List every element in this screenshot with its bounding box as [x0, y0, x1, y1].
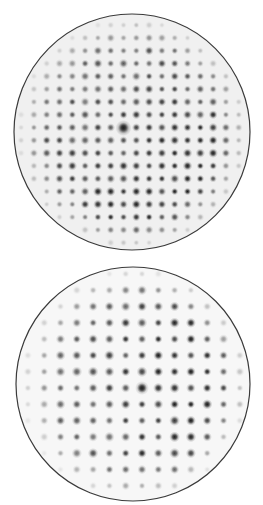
- diffraction-spot: [119, 85, 128, 94]
- diffraction-spot: [88, 334, 98, 344]
- diffraction-spot: [68, 72, 76, 80]
- diffraction-spot: [106, 72, 115, 81]
- diffraction-spot: [153, 399, 163, 409]
- diffraction-spot: [183, 47, 191, 55]
- center-beam-spot: [135, 381, 149, 395]
- diffraction-spot: [137, 432, 146, 441]
- diffraction-spot: [69, 201, 76, 208]
- diffraction-spot: [105, 416, 114, 425]
- diffraction-spot: [184, 60, 192, 68]
- diffraction-spot: [69, 85, 77, 93]
- diffraction-spot: [120, 22, 127, 29]
- diffraction-spot: [132, 136, 140, 144]
- diffraction-spot: [80, 123, 90, 133]
- diffraction-spot: [120, 47, 127, 54]
- diffraction-spot: [30, 175, 38, 183]
- diffraction-spot: [104, 399, 114, 409]
- diffraction-spot: [222, 98, 229, 105]
- diffraction-spot: [30, 124, 37, 131]
- diffraction-spot: [121, 432, 131, 442]
- diffraction-spot: [30, 149, 39, 158]
- diffraction-spot: [30, 73, 37, 80]
- diffraction-spot: [171, 149, 179, 157]
- diffraction-spot: [170, 123, 179, 132]
- diffraction-spot: [56, 384, 65, 393]
- diffraction-spot: [158, 85, 165, 92]
- diffraction-spot: [44, 201, 50, 207]
- diffraction-spot: [89, 319, 97, 327]
- diffraction-spot: [145, 110, 153, 118]
- diffraction-spot: [73, 433, 81, 441]
- diffraction-spot: [43, 188, 50, 195]
- diffraction-spot: [209, 200, 217, 208]
- diffraction-spot: [81, 60, 89, 68]
- diffraction-spot: [203, 449, 211, 457]
- diffraction-spot: [17, 111, 25, 119]
- diffraction-spot: [170, 213, 179, 222]
- diffraction-spot: [137, 366, 148, 377]
- diffraction-spot: [158, 47, 166, 55]
- diffraction-spot: [222, 85, 230, 93]
- diffraction-spot: [81, 47, 89, 55]
- diffraction-spot: [18, 124, 25, 131]
- diffraction-spot: [72, 286, 81, 295]
- diffraction-spot: [106, 162, 114, 170]
- diffraction-spot: [88, 448, 99, 459]
- diffraction-spot: [56, 433, 65, 442]
- diffraction-spot: [137, 448, 147, 458]
- diffraction-spot: [94, 98, 102, 106]
- diffraction-spot: [132, 123, 141, 132]
- diffraction-spot: [94, 175, 102, 183]
- diffraction-spot: [196, 136, 204, 144]
- diffraction-spot: [107, 111, 114, 118]
- diffraction-spot: [236, 351, 244, 359]
- diffraction-spot: [169, 383, 180, 394]
- diffraction-spot: [236, 400, 245, 409]
- diffraction-spot: [56, 334, 66, 344]
- diffraction-spot: [24, 401, 31, 408]
- diffraction-spot: [137, 317, 148, 328]
- diffraction-spot: [107, 47, 115, 55]
- diffraction-spot: [171, 47, 178, 54]
- diffraction-spot: [95, 35, 102, 42]
- diffraction-spot: [145, 34, 154, 43]
- diffraction-spot: [119, 200, 128, 209]
- diffraction-spot: [55, 350, 65, 360]
- diffraction-spot: [154, 286, 162, 294]
- diffraction-spot: [56, 319, 64, 327]
- diffraction-spot: [120, 188, 128, 196]
- diffraction-spot: [133, 47, 140, 54]
- diffraction-spot: [57, 303, 65, 311]
- diffraction-spot: [105, 465, 113, 473]
- diffraction-spot: [121, 318, 131, 328]
- diffraction-spot: [93, 59, 103, 69]
- diffraction-spot: [186, 334, 196, 344]
- diffraction-spot: [157, 187, 166, 196]
- diffraction-spot: [55, 85, 63, 93]
- diffraction-spot: [88, 416, 97, 425]
- diffraction-spot: [184, 72, 192, 80]
- diffraction-spot: [158, 226, 166, 234]
- diffraction-spot: [169, 448, 180, 459]
- diffraction-spot: [30, 111, 38, 119]
- diffraction-spot: [183, 174, 192, 183]
- diffraction-spot: [154, 433, 162, 441]
- diffraction-spot: [221, 123, 230, 132]
- diffraction-spot: [43, 60, 51, 68]
- diffraction-spot: [72, 318, 82, 328]
- diffraction-spot: [197, 162, 204, 169]
- diffraction-spot: [203, 335, 212, 344]
- diffraction-spot: [94, 213, 102, 221]
- diffraction-spot: [203, 302, 212, 311]
- diffraction-spot: [158, 175, 166, 183]
- diffraction-spot: [202, 399, 213, 410]
- diffraction-spot: [169, 431, 180, 442]
- diffraction-spot: [81, 149, 90, 158]
- diffraction-spot: [105, 449, 114, 458]
- diffraction-spot: [80, 110, 90, 120]
- diffraction-spot: [43, 162, 51, 170]
- diffraction-spot: [132, 213, 141, 222]
- diffraction-spot: [171, 34, 178, 41]
- diffraction-spot: [121, 285, 131, 295]
- diffraction-spot: [81, 226, 89, 234]
